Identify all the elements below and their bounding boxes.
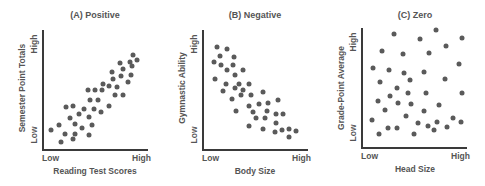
- x-tick-high: High: [451, 151, 470, 161]
- data-point: [375, 98, 380, 103]
- data-point: [432, 128, 437, 133]
- data-point: [385, 125, 390, 130]
- x-axis-label: Head Size: [395, 164, 435, 174]
- data-point: [369, 117, 374, 122]
- data-point: [437, 103, 442, 108]
- y-tick-high: High: [348, 33, 358, 52]
- data-point: [378, 79, 383, 84]
- data-point: [403, 114, 408, 119]
- data-point: [395, 85, 400, 90]
- panel-title: (C) Zero: [398, 10, 433, 20]
- data-point: [396, 100, 401, 105]
- data-point: [387, 93, 392, 98]
- data-point: [421, 109, 426, 114]
- data-point: [426, 50, 431, 55]
- data-point: [434, 28, 439, 33]
- data-point: [391, 31, 396, 36]
- data-point: [370, 66, 375, 71]
- data-point: [451, 116, 456, 121]
- data-point: [412, 131, 417, 136]
- data-point: [456, 61, 461, 66]
- data-point: [444, 124, 449, 129]
- data-point: [395, 125, 400, 130]
- data-point: [418, 36, 423, 41]
- data-point: [383, 108, 388, 113]
- data-point: [442, 77, 447, 82]
- data-point: [402, 71, 407, 76]
- data-point: [416, 121, 421, 126]
- x-axis: [361, 147, 467, 149]
- data-point: [377, 131, 382, 136]
- panel-zero: (C) Zero Grade-Point Average High Low Lo…: [0, 0, 485, 186]
- data-point: [380, 48, 385, 53]
- data-point: [435, 120, 440, 125]
- data-point: [421, 70, 426, 75]
- data-point: [458, 120, 463, 125]
- y-axis: [361, 28, 363, 148]
- data-point: [408, 102, 413, 107]
- data-point: [443, 43, 448, 48]
- data-point: [401, 52, 406, 57]
- y-axis-label: Grade-Point Average: [336, 46, 346, 130]
- data-point: [423, 91, 428, 96]
- data-point: [425, 123, 430, 128]
- data-point: [407, 78, 412, 83]
- data-point: [405, 91, 410, 96]
- x-tick-low: Low: [361, 151, 378, 161]
- data-point: [459, 35, 464, 40]
- data-point: [459, 91, 464, 96]
- data-point: [386, 67, 391, 72]
- y-tick-low: Low: [348, 125, 358, 142]
